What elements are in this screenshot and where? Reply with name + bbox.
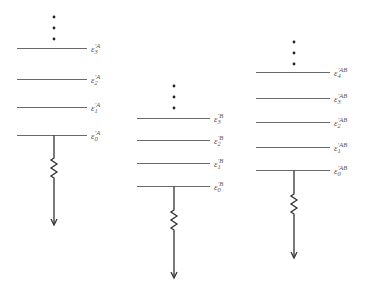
- level-label-ab-2: ε2′AB: [334, 117, 347, 130]
- energy-level-diagram: [0, 0, 367, 289]
- level-label-ab-4: ε4′AB: [334, 67, 347, 80]
- level-label-ab-3: ε3′AB: [334, 93, 347, 106]
- continuation-dot: [173, 107, 176, 110]
- column-ab: [256, 41, 330, 258]
- continuation-dot: [293, 52, 296, 55]
- level-label-b-0: ε0′B: [214, 181, 223, 194]
- level-label-a-3: ε3′A: [91, 43, 100, 56]
- level-label-ab-0: ε0′AB: [334, 165, 347, 178]
- level-label-b-2: ε2′B: [214, 135, 223, 148]
- level-label-a-1: ε1′A: [91, 102, 100, 115]
- level-label-b-1: ε1′B: [214, 158, 223, 171]
- level-label-ab-1: ε1′AB: [334, 142, 347, 155]
- decay-zigzag-stem-a: [51, 136, 57, 225]
- column-a: [17, 16, 87, 225]
- level-label-a-0: ε0′A: [91, 130, 100, 143]
- continuation-dot: [53, 38, 56, 41]
- column-b: [137, 85, 210, 278]
- continuation-dot: [53, 16, 56, 19]
- continuation-dot: [53, 27, 56, 30]
- decay-zigzag-stem-ab: [291, 171, 297, 258]
- continuation-dot: [293, 41, 296, 44]
- continuation-dot: [173, 96, 176, 99]
- continuation-dot: [173, 85, 176, 88]
- decay-zigzag-stem-b: [171, 187, 177, 278]
- level-label-b-3: ε3′B: [214, 113, 223, 126]
- continuation-dot: [293, 63, 296, 66]
- level-label-a-2: ε2′A: [91, 74, 100, 87]
